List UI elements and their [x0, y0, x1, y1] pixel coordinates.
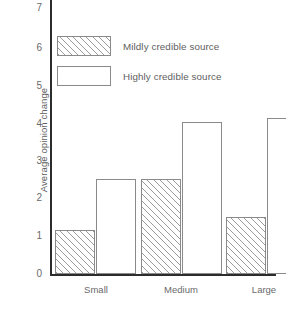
y-tick-label-1: 1 — [26, 231, 42, 241]
y-tick-label-4: 4 — [26, 119, 42, 129]
y-tick-label-6: 6 — [26, 43, 42, 53]
x-axis-line — [50, 274, 276, 276]
y-tick-label-3: 3 — [26, 156, 42, 166]
y-axis-line — [50, 0, 52, 275]
bar-small-mildly-credible — [55, 230, 95, 274]
legend-swatch-mildly-credible — [57, 36, 111, 56]
y-tick-label-0: 0 — [26, 269, 42, 279]
bar-medium-mildly-credible — [141, 179, 181, 274]
x-category-label-medium: Medium — [155, 284, 207, 295]
legend-label-highly-credible: Highly credible source — [123, 71, 222, 82]
x-category-label-large: Large — [238, 284, 286, 295]
legend-label-mildly-credible: Mildly credible source — [123, 41, 219, 52]
y-axis-title: Average opinion change — [38, 40, 49, 240]
bar-small-highly-credible — [96, 179, 136, 274]
bar-medium-highly-credible — [182, 122, 222, 274]
bar-large-mildly-credible — [226, 217, 266, 274]
x-category-label-small: Small — [70, 284, 122, 295]
bar-chart: Average opinion change 7 6 5 4 3 2 1 0 S… — [0, 0, 286, 311]
y-tick-label-5: 5 — [26, 81, 42, 91]
y-tick-label-2: 2 — [26, 193, 42, 203]
bar-large-highly-credible — [267, 118, 286, 274]
legend-swatch-highly-credible — [57, 66, 111, 86]
y-tick-label-7: 7 — [26, 3, 42, 13]
